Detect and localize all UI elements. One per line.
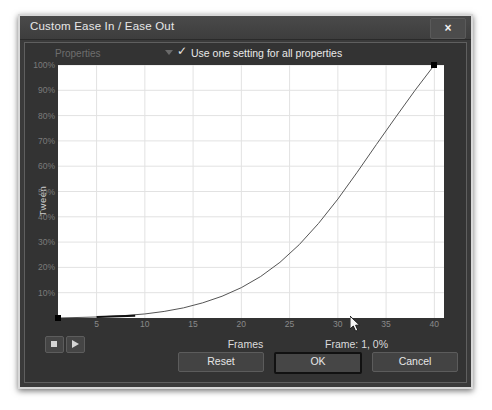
- y-tick-label: 10%: [38, 288, 55, 298]
- check-icon: ✓: [177, 45, 187, 57]
- x-tick-label: 40: [430, 319, 439, 329]
- ok-button[interactable]: OK: [274, 352, 362, 374]
- y-tick-label: 80%: [38, 111, 55, 121]
- dialog-body: Properties ✓ Use one setting for all pro…: [24, 42, 467, 383]
- curve-svg: [58, 65, 444, 318]
- close-icon[interactable]: ×: [430, 18, 466, 39]
- chevron-down-icon[interactable]: [165, 50, 173, 55]
- status-readout: Frame: 1, 0%: [325, 338, 388, 350]
- ease-graph: Tween 10%20%30%40%50%60%70%80%90%100%510…: [42, 65, 462, 336]
- plot-canvas[interactable]: 10%20%30%40%50%60%70%80%90%100%510152025…: [58, 65, 444, 318]
- y-tick-label: 40%: [38, 212, 55, 222]
- x-tick-label: 20: [237, 319, 246, 329]
- control-point-handle[interactable]: [55, 315, 61, 321]
- y-tick-label: 60%: [38, 161, 55, 171]
- control-point-handle[interactable]: [431, 62, 437, 68]
- dialog-button-row: Reset OK Cancel: [178, 352, 458, 374]
- properties-row: Properties ✓ Use one setting for all pro…: [25, 43, 466, 65]
- x-tick-label: 5: [94, 319, 99, 329]
- y-tick-label: 50%: [38, 187, 55, 197]
- dialog-titlebar[interactable]: Custom Ease In / Ease Out ×: [20, 16, 471, 40]
- y-tick-label: 20%: [38, 262, 55, 272]
- y-tick-label: 70%: [38, 136, 55, 146]
- dialog-title: Custom Ease In / Ease Out: [30, 20, 174, 32]
- properties-dropdown[interactable]: Properties: [53, 46, 175, 61]
- x-tick-label: 25: [285, 319, 294, 329]
- use-one-setting-label: Use one setting for all properties: [191, 47, 342, 59]
- x-tick-label: 35: [381, 319, 390, 329]
- y-tick-label: 100%: [33, 60, 55, 70]
- cancel-button[interactable]: Cancel: [372, 352, 458, 372]
- y-tick-label: 90%: [38, 85, 55, 95]
- checkbox-box: ✓: [177, 48, 187, 58]
- x-axis-title: Frames: [25, 338, 466, 350]
- x-tick-label: 10: [140, 319, 149, 329]
- x-tick-label: 30: [333, 319, 342, 329]
- x-tick-label: 15: [188, 319, 197, 329]
- reset-button[interactable]: Reset: [178, 352, 264, 372]
- use-one-setting-checkbox[interactable]: ✓ Use one setting for all properties: [177, 45, 342, 61]
- custom-ease-dialog: Custom Ease In / Ease Out × Properties ✓…: [18, 14, 473, 389]
- y-tick-label: 30%: [38, 237, 55, 247]
